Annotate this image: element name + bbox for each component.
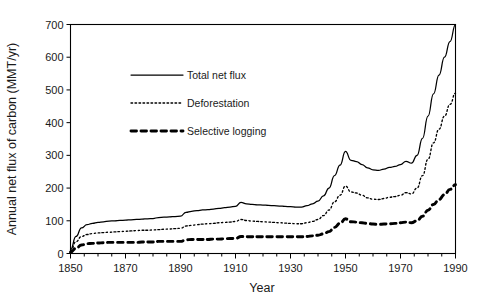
legend-label-deforestation: Deforestation xyxy=(187,97,250,109)
y-axis-tick-labels: 0100200300400500600700 xyxy=(45,19,63,260)
x-axis-tick-marks xyxy=(71,254,456,259)
y-tick-label: 600 xyxy=(45,51,63,63)
chart-figure: 0100200300400500600700 18501870189019101… xyxy=(0,0,479,303)
y-tick-label: 500 xyxy=(45,84,63,96)
x-axis-title: Year xyxy=(249,281,274,295)
x-axis-tick-labels: 18501870189019101930195019701990 xyxy=(58,262,467,274)
y-axis-title: Annual net flux of carbon (MMT/yr) xyxy=(5,43,19,235)
x-tick-label: 1850 xyxy=(58,262,82,274)
x-tick-label: 1890 xyxy=(168,262,192,274)
plot-frame xyxy=(71,25,456,254)
x-tick-label: 1910 xyxy=(223,262,247,274)
series-line-selective-logging xyxy=(71,185,456,252)
legend-label-selective-logging: Selective logging xyxy=(187,125,267,137)
chart-legend: Total net fluxDeforestationSelective log… xyxy=(131,69,267,137)
data-series-group xyxy=(71,25,456,253)
y-tick-label: 200 xyxy=(45,182,63,194)
x-tick-label: 1950 xyxy=(333,262,357,274)
series-line-total-net-flux xyxy=(71,25,456,250)
series-line-deforestation xyxy=(71,93,456,251)
y-tick-label: 0 xyxy=(57,248,63,260)
legend-label-total-net-flux: Total net flux xyxy=(187,69,247,81)
y-tick-label: 100 xyxy=(45,215,63,227)
y-tick-label: 300 xyxy=(45,149,63,161)
x-tick-label: 1990 xyxy=(443,262,467,274)
chart-canvas: 0100200300400500600700 18501870189019101… xyxy=(0,0,479,303)
y-tick-label: 700 xyxy=(45,19,63,31)
y-axis-tick-marks xyxy=(67,25,71,254)
y-tick-label: 400 xyxy=(45,117,63,129)
x-tick-label: 1870 xyxy=(113,262,137,274)
x-tick-label: 1930 xyxy=(278,262,302,274)
x-tick-label: 1970 xyxy=(388,262,412,274)
